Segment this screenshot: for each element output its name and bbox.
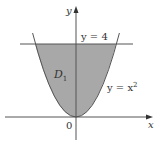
y-axis-label: y xyxy=(65,5,72,16)
y-axis-arrow-icon xyxy=(74,6,79,13)
line-label-y4: y = 4 xyxy=(80,31,108,42)
parabola-label: y = x2 xyxy=(106,81,138,93)
origin-label: 0 xyxy=(66,120,72,131)
region-diagram: y x 0 y = 4 D1 y = x2 xyxy=(0,0,161,145)
x-axis-label: x xyxy=(148,119,154,130)
